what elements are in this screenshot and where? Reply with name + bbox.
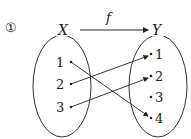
x-element-3: 3 [56,100,64,115]
y-element-1: 1 [155,47,163,62]
y-element-2: 2 [155,69,163,84]
x-element-2: 2 [56,77,64,92]
y-element-3: 3 [155,90,163,105]
function-mapping-diagram: ① X Y f 1 2 3 1 2 3 4 [0,0,191,139]
problem-number-label: ① [5,20,17,35]
x-element-1: 1 [56,55,64,70]
y-element-4: 4 [155,111,163,126]
set-x-label: X [57,22,69,38]
function-label: f [105,10,113,25]
mapping-arrow-3-to-2 [71,78,148,107]
